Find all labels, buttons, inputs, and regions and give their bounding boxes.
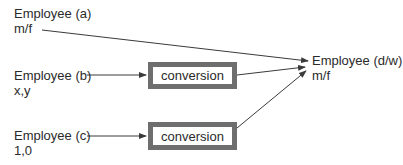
arrow-conversion2-to-target xyxy=(237,71,306,128)
source-value: 1,0 xyxy=(14,143,91,158)
conversion-label: conversion xyxy=(161,68,224,83)
source-name: Employee (b) xyxy=(14,68,91,83)
target-employee-dw: Employee (d/w) m/f xyxy=(312,53,402,83)
arrow-conversion1-to-target xyxy=(237,67,305,75)
source-employee-b: Employee (b) x,y xyxy=(14,68,91,98)
source-value: x,y xyxy=(14,83,91,98)
source-employee-a: Employee (a) m/f xyxy=(14,6,91,36)
conversion-box-2: conversion xyxy=(148,122,237,150)
conversion-box-1: conversion xyxy=(148,62,237,89)
target-value: m/f xyxy=(312,68,402,83)
source-name: Employee (c) xyxy=(14,128,91,143)
conversion-label: conversion xyxy=(161,129,224,144)
source-employee-c: Employee (c) 1,0 xyxy=(14,128,91,158)
target-name: Employee (d/w) xyxy=(312,53,402,68)
source-name: Employee (a) xyxy=(14,6,91,21)
source-value: m/f xyxy=(14,21,91,36)
